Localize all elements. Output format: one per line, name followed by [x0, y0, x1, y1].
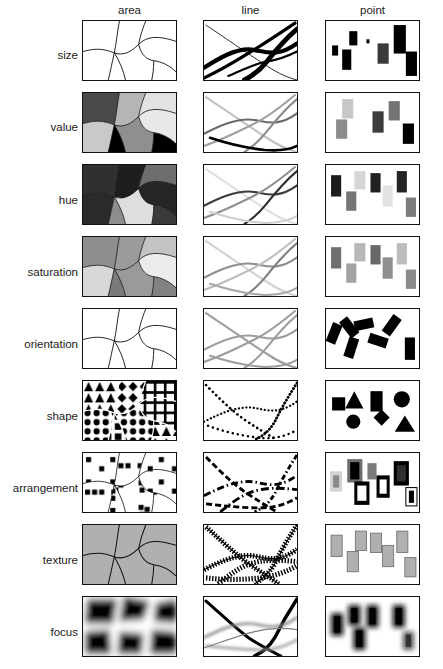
cell-texture-point: [325, 524, 420, 585]
cell-value-area: [82, 92, 177, 153]
column-header-area: area: [82, 2, 177, 18]
cell-size-line: [203, 20, 298, 81]
cell-orientation-line: [203, 308, 298, 369]
cell-shape-area: [82, 380, 177, 441]
cell-orientation-area: [82, 308, 177, 369]
cell-arrangement-point: [325, 452, 420, 513]
cell-size-point: [325, 20, 420, 81]
cell-arrangement-area: [82, 452, 177, 513]
row-label-arrangement: arrangement: [0, 482, 78, 494]
row-label-orientation: orientation: [0, 338, 78, 350]
column-header-line: line: [203, 2, 298, 18]
cell-value-point: [325, 92, 420, 153]
cell-texture-area: [82, 524, 177, 585]
cell-hue-area: [82, 164, 177, 225]
cell-value-line: [203, 92, 298, 153]
cell-shape-line: [203, 380, 298, 441]
cell-hue-line: [203, 164, 298, 225]
cell-arrangement-line: [203, 452, 298, 513]
cell-saturation-area: [82, 236, 177, 297]
column-header-point: point: [325, 2, 420, 18]
row-label-focus: focus: [0, 626, 78, 638]
cell-size-area: [82, 20, 177, 81]
cell-focus-line: [203, 596, 298, 657]
row-label-size: size: [0, 49, 78, 61]
row-label-saturation: saturation: [0, 266, 78, 278]
cell-orientation-point: [325, 308, 420, 369]
cell-saturation-point: [325, 236, 420, 297]
cell-texture-line: [203, 524, 298, 585]
visual-variables-figure: area line point size value hue saturatio…: [0, 0, 443, 669]
cell-shape-point: [325, 380, 420, 441]
row-label-texture: texture: [0, 554, 78, 566]
cell-hue-point: [325, 164, 420, 225]
row-label-hue: hue: [0, 194, 78, 206]
row-label-shape: shape: [0, 410, 78, 422]
cell-focus-point: [325, 596, 420, 657]
cell-focus-area: [82, 596, 177, 657]
row-label-value: value: [0, 121, 78, 133]
cell-saturation-line: [203, 236, 298, 297]
